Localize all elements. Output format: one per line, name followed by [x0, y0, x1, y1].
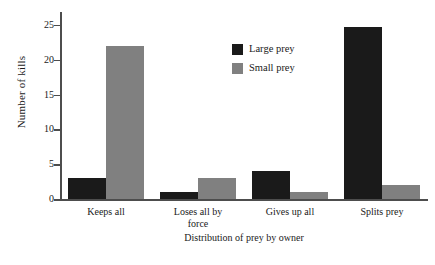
- x-category-label-line: Loses all by: [152, 206, 244, 218]
- bar: [252, 171, 290, 199]
- x-category-label-line: force: [152, 218, 244, 230]
- legend-swatch-icon: [232, 44, 243, 55]
- legend-label: Large prey: [249, 43, 295, 55]
- y-axis-line: [60, 12, 62, 199]
- y-tick-label: 5: [49, 156, 54, 171]
- legend-item: Large prey: [232, 41, 295, 57]
- x-category-label-line: Splits prey: [336, 206, 428, 218]
- bar: [290, 192, 328, 199]
- x-category-label: Gives up all: [244, 206, 336, 218]
- y-tick-mark: [54, 25, 60, 27]
- y-tick-label: 10: [44, 121, 54, 136]
- x-category-label: Loses all byforce: [152, 206, 244, 230]
- y-tick-mark: [54, 60, 60, 62]
- bar: [382, 185, 420, 199]
- legend: Large preySmall prey: [232, 41, 295, 79]
- y-tick-label: 25: [44, 17, 54, 32]
- y-axis-title: Number of kills: [10, 0, 32, 192]
- y-tick-mark: [54, 199, 60, 201]
- y-tick-mark: [54, 129, 60, 131]
- bar-chart-figure: Number of kills 0510152025 Keeps allLose…: [0, 0, 435, 265]
- y-tick-mark: [54, 164, 60, 166]
- y-tick-label: 20: [44, 52, 54, 67]
- bar: [160, 192, 198, 199]
- y-tick-label: 15: [44, 87, 54, 102]
- x-axis-title: Distribution of prey by owner: [60, 232, 428, 243]
- bar: [106, 46, 144, 199]
- y-tick-mark: [54, 95, 60, 97]
- legend-label: Small prey: [249, 62, 295, 74]
- bar: [344, 27, 382, 199]
- bar: [68, 178, 106, 199]
- bar: [198, 178, 236, 199]
- x-category-label: Splits prey: [336, 206, 428, 218]
- legend-item: Small prey: [232, 60, 295, 76]
- x-category-label-line: Keeps all: [60, 206, 152, 218]
- x-axis-line: [55, 199, 428, 201]
- legend-swatch-icon: [232, 63, 243, 74]
- y-tick-label: 0: [49, 191, 54, 206]
- x-category-label: Keeps all: [60, 206, 152, 218]
- x-category-label-line: Gives up all: [244, 206, 336, 218]
